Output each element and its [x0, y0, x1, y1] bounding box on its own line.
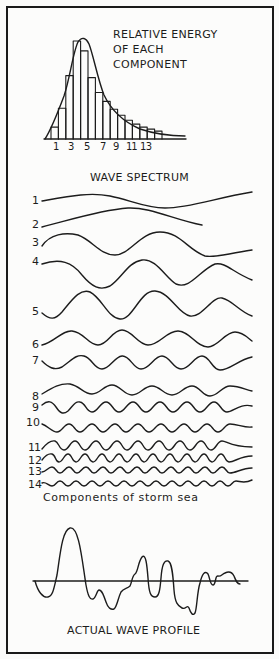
actual-wave-profile [35, 528, 240, 614]
wave-component-9 [42, 402, 252, 413]
wave-component-11 [42, 441, 252, 450]
component-label-13: 13 [28, 466, 42, 477]
wave-component-14 [42, 480, 252, 486]
energy-tick-label: 5 [84, 142, 90, 152]
energy-chart-title-line-1: RELATIVE ENERGY [113, 29, 218, 40]
energy-chart-title-line-2: OF EACH [113, 44, 164, 55]
energy-bar [147, 129, 154, 139]
component-label-11: 11 [28, 442, 40, 453]
component-label-5: 5 [32, 306, 39, 317]
wave-component-13 [42, 467, 252, 473]
energy-tick-label: 11 [126, 142, 137, 152]
wave-component-12 [42, 454, 252, 462]
energy-bar [81, 51, 88, 139]
wave-component-10 [42, 424, 252, 432]
energy-bar [58, 108, 65, 139]
component-label-10: 10 [26, 417, 40, 428]
energy-bar [103, 101, 110, 139]
energy-tick-label: 1 [53, 142, 59, 152]
energy-tick-label: 13 [140, 142, 152, 152]
wave-component-8 [42, 384, 252, 396]
component-label-9: 9 [32, 402, 39, 413]
energy-tick-label: 7 [100, 142, 106, 152]
wave-profile-caption: ACTUAL WAVE PROFILE [67, 625, 200, 636]
wave-component-2 [42, 208, 202, 227]
energy-bar [95, 92, 102, 139]
component-label-1: 1 [32, 195, 39, 206]
component-label-2: 2 [32, 219, 39, 230]
wave-component-6 [42, 330, 252, 347]
wave-spectrum-caption: WAVE SPECTRUM [90, 172, 189, 183]
energy-bar [51, 127, 58, 139]
energy-bar [155, 131, 162, 139]
wave-component-5 [42, 291, 252, 319]
wave-component-1 [42, 192, 252, 208]
component-label-6: 6 [32, 339, 39, 350]
wave-component-3 [42, 232, 252, 257]
energy-bar [88, 78, 95, 139]
wave-component-4 [42, 260, 252, 288]
energy-tick-label: 9 [113, 142, 119, 152]
wave-component-7 [42, 356, 252, 370]
energy-chart-title-line-3: COMPONENT [113, 59, 187, 70]
energy-tick-label: 3 [68, 142, 74, 152]
component-label-14: 14 [28, 479, 42, 490]
components-caption: Components of storm sea [43, 492, 199, 503]
component-label-7: 7 [32, 355, 39, 366]
diagram-graphics [0, 0, 279, 659]
component-label-4: 4 [32, 256, 39, 267]
component-label-3: 3 [32, 237, 39, 248]
figure: RELATIVE ENERGY OF EACH COMPONENT 1 3 5 … [0, 0, 279, 659]
